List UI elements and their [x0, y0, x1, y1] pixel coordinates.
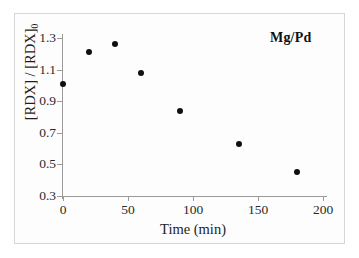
y-axis-title-wrapper: [RDX] / [RDX]0 — [21, 0, 41, 152]
data-point — [138, 70, 144, 76]
x-axis-tick-label: 200 — [301, 203, 345, 217]
x-axis-tick-label: 100 — [171, 203, 215, 217]
x-axis-tick-label: 150 — [236, 203, 280, 217]
x-axis-tick — [128, 196, 129, 201]
x-axis-tick — [63, 196, 64, 201]
x-axis-tick-label: 50 — [106, 203, 150, 217]
x-axis-tick-label: 0 — [41, 203, 85, 217]
y-axis-title-base: [RDX] / [RDX] — [22, 28, 38, 120]
x-axis-tick — [323, 196, 324, 201]
plot-area — [63, 38, 323, 196]
data-point — [236, 141, 242, 147]
data-point — [60, 81, 66, 87]
y-axis-tick-label: 0.3 — [22, 189, 56, 203]
y-axis-tick-label: 0.5 — [22, 157, 56, 171]
x-axis-title: Time (min) — [63, 221, 323, 238]
x-axis-tick — [258, 196, 259, 201]
figure-container: 0.30.50.70.91.11.3 050100150200 Time (mi… — [0, 0, 359, 258]
y-axis-title: [RDX] / [RDX]0 — [22, 24, 38, 121]
series-annotation-label: Mg/Pd — [270, 30, 311, 46]
y-axis-title-subscript: 0 — [30, 24, 40, 29]
data-point — [177, 108, 183, 114]
x-axis-tick — [193, 196, 194, 201]
